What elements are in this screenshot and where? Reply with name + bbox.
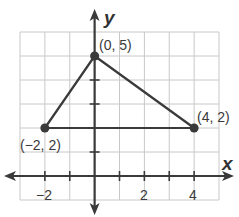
x-axis-label: x <box>221 153 234 174</box>
point-label-0-5: (0, 5) <box>99 37 132 53</box>
point-label-neg2-2: (−2, 2) <box>20 137 61 153</box>
point-label-4-2: (4, 2) <box>197 109 230 125</box>
x-tick-label-4: 4 <box>189 187 197 203</box>
x-tick-label-neg2: −2 <box>36 187 52 203</box>
y-axis-label: y <box>103 7 116 28</box>
x-tick-label-2: 2 <box>140 187 148 203</box>
vertex-point <box>40 124 49 133</box>
vertex-point <box>90 52 99 61</box>
coordinate-plane: y x −2 2 4 (0, 5) (4, 2) (−2, 2) <box>0 0 239 217</box>
